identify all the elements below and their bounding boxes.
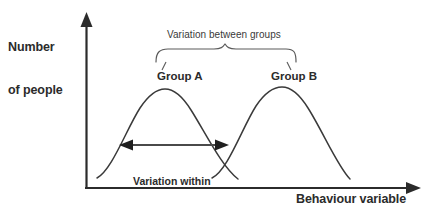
annotation-within-groups-line2: groups — [133, 211, 237, 214]
y-axis — [81, 12, 93, 188]
y-axis-label: Number of people — [8, 11, 63, 126]
annotation-within-groups: Variation within groups — [133, 151, 237, 214]
annotation-within-groups-line1: Variation within — [133, 175, 237, 187]
brace-tick-right — [287, 62, 291, 70]
y-axis-arrowhead-icon — [81, 12, 93, 27]
annotation-between-groups: Variation between groups — [167, 29, 281, 41]
arrow-within-groups — [119, 140, 229, 151]
brace-between-groups — [156, 44, 296, 62]
arrow-head-left-icon — [119, 140, 133, 151]
label-group-b: Group B — [271, 70, 317, 83]
y-axis-label-line1: Number — [8, 40, 63, 54]
x-axis-label: Behaviour variable — [296, 192, 406, 206]
brace-tick-left — [162, 62, 166, 70]
label-group-a: Group A — [157, 70, 203, 83]
arrow-head-right-icon — [215, 140, 229, 151]
figure-canvas: Number of people Behaviour variable Vari… — [0, 0, 438, 214]
x-axis-arrowhead-icon — [406, 182, 421, 194]
y-axis-label-line2: of people — [8, 83, 63, 97]
